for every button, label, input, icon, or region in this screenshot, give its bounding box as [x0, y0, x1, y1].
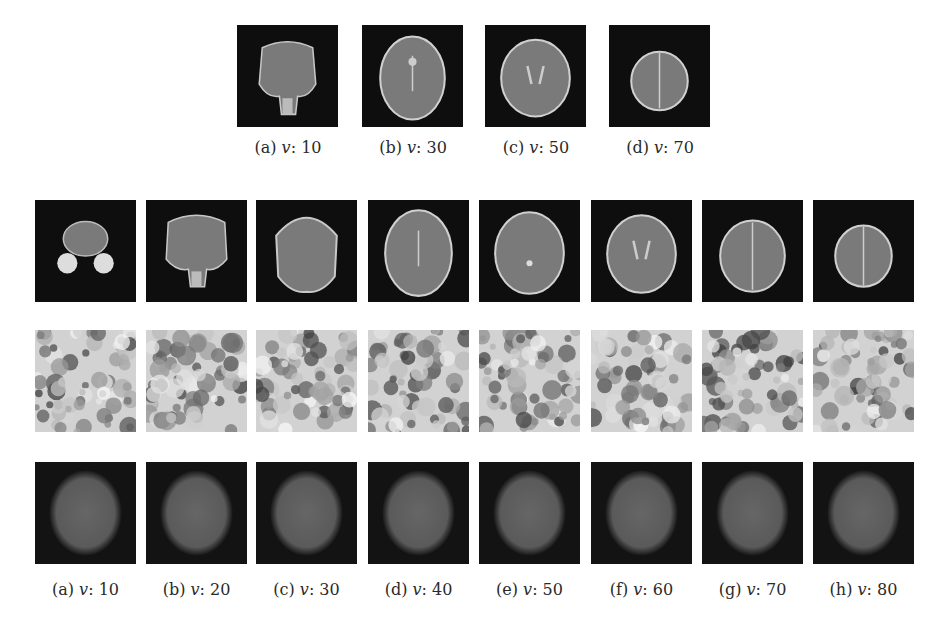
generated-noise-image-5 — [479, 330, 580, 432]
caption-bottom-a: (a) v: 10 — [29, 580, 142, 599]
generated-blob-image-2 — [146, 462, 247, 564]
caption-top-c: (c) v: 50 — [481, 138, 591, 157]
generated-noise-image-8 — [813, 330, 914, 432]
caption-bottom-h: (h) v: 80 — [807, 580, 920, 599]
generated-blob-image-4 — [368, 462, 469, 564]
real-mri-slices-image-2 — [146, 200, 247, 302]
generated-noise-image-6 — [591, 330, 692, 432]
generated-noise-image-2 — [146, 330, 247, 432]
mri-slice-image-b — [362, 25, 463, 127]
caption-bottom-c: (c) v: 30 — [250, 580, 363, 599]
caption-bottom-g: (g) v: 70 — [696, 580, 809, 599]
caption-top-a: (a) v: 10 — [233, 138, 343, 157]
real-mri-slices-image-5 — [479, 200, 580, 302]
generated-blob-image-8 — [813, 462, 914, 564]
generated-blob-image-1 — [35, 462, 136, 564]
real-mri-slices-image-4 — [368, 200, 469, 302]
generated-blob-image-7 — [702, 462, 803, 564]
generated-noise-image-4 — [368, 330, 469, 432]
caption-bottom-e: (e) v: 50 — [473, 580, 586, 599]
mri-slice-image-a — [237, 25, 338, 127]
mri-slice-image-c — [485, 25, 586, 127]
caption-top-d: (d) v: 70 — [605, 138, 715, 157]
generated-blob-image-5 — [479, 462, 580, 564]
real-mri-slices-image-6 — [591, 200, 692, 302]
generated-noise-image-3 — [256, 330, 357, 432]
real-mri-slices-image-3 — [256, 200, 357, 302]
generated-noise-image-1 — [35, 330, 136, 432]
generated-blob-image-6 — [591, 462, 692, 564]
caption-bottom-f: (f) v: 60 — [585, 580, 698, 599]
generated-blob-image-3 — [256, 462, 357, 564]
caption-bottom-b: (b) v: 20 — [140, 580, 253, 599]
mri-slice-image-d — [609, 25, 710, 127]
real-mri-slices-image-8 — [813, 200, 914, 302]
real-mri-slices-image-7 — [702, 200, 803, 302]
caption-bottom-d: (d) v: 40 — [362, 580, 475, 599]
generated-noise-image-7 — [702, 330, 803, 432]
caption-top-b: (b) v: 30 — [358, 138, 468, 157]
real-mri-slices-image-1 — [35, 200, 136, 302]
